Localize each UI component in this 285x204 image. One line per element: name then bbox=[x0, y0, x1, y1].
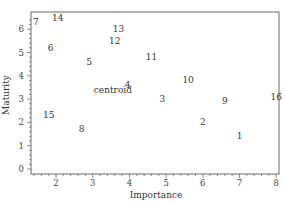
point-label: 6 bbox=[48, 43, 54, 53]
point-label: 12 bbox=[109, 36, 120, 46]
point-label: 15 bbox=[43, 110, 55, 120]
point-label: 13 bbox=[113, 24, 125, 34]
scatter-chart: 0123456 2345678 12345678910111213141516c… bbox=[0, 0, 285, 204]
y-tick-label: 1 bbox=[19, 141, 24, 151]
point-label: 9 bbox=[222, 96, 228, 106]
y-tick-label: 0 bbox=[19, 164, 24, 174]
x-tick-label: 7 bbox=[237, 178, 242, 188]
y-axis-label: Maturity bbox=[1, 74, 11, 115]
point-label: 3 bbox=[160, 94, 166, 104]
point-label: 8 bbox=[79, 124, 85, 134]
y-tick-label: 6 bbox=[19, 24, 24, 34]
centroid-label: centroid bbox=[94, 85, 132, 95]
point-label: 10 bbox=[182, 75, 194, 85]
x-axis-label: Importance bbox=[130, 190, 183, 200]
x-tick-label: 6 bbox=[200, 178, 205, 188]
point-label: 5 bbox=[86, 57, 92, 67]
y-tick-label: 2 bbox=[19, 117, 24, 127]
point-label: 7 bbox=[33, 17, 39, 27]
point-label: 1 bbox=[237, 131, 243, 141]
point-label: 14 bbox=[52, 13, 64, 23]
y-tick-label: 3 bbox=[19, 94, 24, 104]
point-label: 16 bbox=[270, 92, 282, 102]
plot-frame bbox=[31, 12, 279, 174]
x-tick-label: 8 bbox=[273, 178, 278, 188]
y-tick-label: 5 bbox=[19, 48, 24, 58]
y-axis: 0123456 bbox=[19, 20, 31, 174]
point-label: 2 bbox=[200, 117, 206, 127]
x-tick-label: 5 bbox=[163, 178, 168, 188]
y-tick-label: 4 bbox=[19, 71, 24, 81]
x-tick-label: 4 bbox=[127, 178, 132, 188]
x-tick-label: 2 bbox=[53, 178, 58, 188]
x-axis: 2345678 bbox=[34, 174, 279, 188]
x-tick-label: 3 bbox=[90, 178, 95, 188]
data-points: 12345678910111213141516centroid bbox=[33, 13, 282, 142]
point-label: 11 bbox=[146, 52, 157, 62]
